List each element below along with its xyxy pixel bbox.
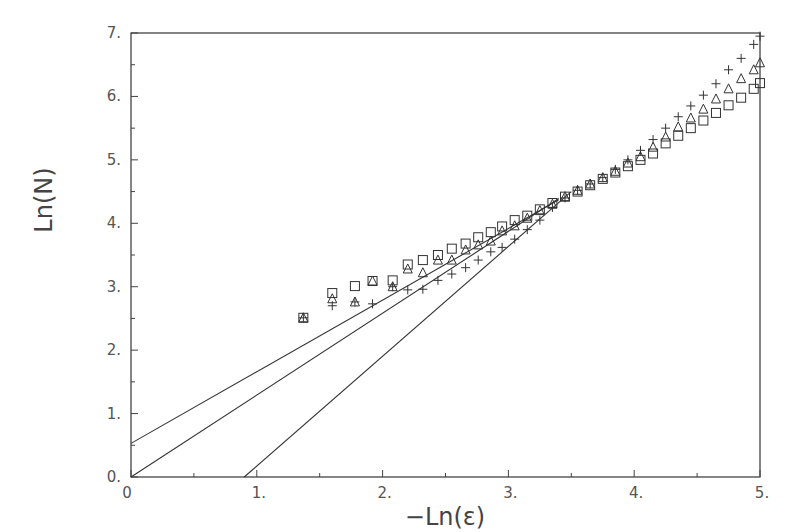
plot-border	[131, 33, 760, 477]
plus-marker	[711, 79, 720, 88]
y-tick-label: 2.	[107, 341, 121, 359]
triangle-marker	[749, 65, 758, 74]
y-tick-label: 3.	[107, 278, 121, 296]
square-marker	[737, 93, 746, 102]
triangle-marker	[403, 264, 412, 273]
plus-marker	[661, 124, 670, 133]
y-tick-label: 0.	[107, 468, 121, 486]
plus-marker	[686, 101, 695, 110]
x-tick-label: 4.	[629, 484, 643, 502]
triangle-marker	[724, 84, 733, 93]
plus-marker	[636, 146, 645, 155]
plot-frame	[131, 33, 760, 477]
plus-marker	[388, 282, 397, 291]
triangle-marker	[699, 104, 708, 113]
triangle-marker	[661, 132, 670, 141]
y-axis-ticks: 0.1.2.3.4.5.6.7.	[107, 24, 138, 486]
y-tick-label: 6.	[107, 87, 121, 105]
square-marker	[461, 239, 470, 248]
plus-marker	[649, 135, 658, 144]
fit-line-2	[131, 199, 559, 477]
x-tick-label: 5.	[755, 484, 769, 502]
plus-marker	[498, 243, 507, 252]
plus-marker	[403, 285, 412, 294]
x-tick-label: 1.	[252, 484, 266, 502]
plus-marker	[510, 235, 519, 244]
fit-line-3	[244, 192, 571, 477]
plus-marker	[418, 285, 427, 294]
plus-marker	[461, 263, 470, 272]
plus-marker	[299, 313, 308, 322]
plus-marker	[474, 256, 483, 265]
triangle-marker	[711, 94, 720, 103]
plus-marker	[749, 40, 758, 49]
triangle-marker	[737, 74, 746, 83]
plus-marker	[623, 155, 632, 164]
plus-marker	[699, 91, 708, 100]
triangle-marker	[686, 113, 695, 122]
triangle-marker	[674, 122, 683, 131]
y-tick-label: 4.	[107, 214, 121, 232]
data-series	[299, 32, 765, 323]
x-tick-label: 2.	[377, 484, 391, 502]
square-marker	[699, 116, 708, 125]
square-marker	[649, 149, 658, 158]
square-marker	[636, 155, 645, 164]
square-marker	[350, 282, 359, 291]
x-tick-label: 3.	[503, 484, 517, 502]
series-squares	[299, 79, 765, 323]
square-marker	[686, 124, 695, 133]
square-marker	[724, 101, 733, 110]
plus-marker	[447, 270, 456, 279]
x-tick-label: 0	[122, 484, 132, 502]
square-marker	[368, 277, 377, 286]
square-marker	[661, 139, 670, 148]
x-axis-title: −Ln(ε)	[405, 503, 485, 531]
plus-marker	[486, 247, 495, 256]
plus-marker	[433, 276, 442, 285]
scatter-chart: 01.2.3.4.5. 0.1.2.3.4.5.6.7. −Ln(ε) Ln(N…	[0, 0, 788, 532]
square-marker	[418, 256, 427, 265]
plus-marker	[368, 299, 377, 308]
fit-lines	[131, 192, 571, 477]
y-tick-label: 7.	[107, 24, 121, 42]
series-pluses	[299, 32, 765, 323]
plus-marker	[674, 112, 683, 121]
triangle-marker	[368, 276, 377, 285]
square-marker	[674, 131, 683, 140]
plus-marker	[350, 297, 359, 306]
plus-marker	[724, 65, 733, 74]
square-marker	[711, 108, 720, 117]
y-axis-title: Ln(N)	[30, 167, 58, 232]
plus-marker	[737, 54, 746, 63]
x-axis-ticks: 01.2.3.4.5.	[122, 470, 769, 502]
y-tick-label: 1.	[107, 405, 121, 423]
y-tick-label: 5.	[107, 151, 121, 169]
square-marker	[447, 244, 456, 253]
square-marker	[749, 84, 758, 93]
series-triangles	[299, 58, 765, 322]
